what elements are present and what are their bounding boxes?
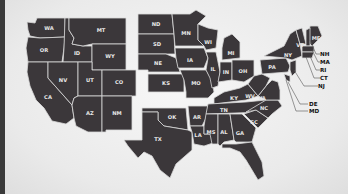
label-ri: RI (320, 67, 326, 73)
label-mi: MI (227, 50, 234, 56)
svg-text:CT: CT (320, 75, 328, 81)
svg-text:MO: MO (191, 80, 201, 86)
svg-text:FL: FL (245, 165, 253, 171)
svg-text:VT: VT (296, 42, 304, 48)
svg-text:MI: MI (227, 50, 234, 56)
label-me: ME (312, 35, 321, 41)
label-la: LA (194, 132, 201, 138)
state-mi[interactable] (222, 34, 240, 60)
label-nv: NV (59, 77, 67, 83)
label-pa: PA (268, 64, 275, 70)
label-ok: OK (168, 114, 177, 120)
label-in: IN (223, 69, 229, 75)
state-ct-ri[interactable] (302, 52, 314, 58)
svg-text:AL: AL (220, 129, 228, 135)
label-wv: WV (245, 93, 255, 99)
label-nm: NM (112, 110, 122, 116)
svg-text:IA: IA (187, 57, 193, 63)
label-ks: KS (162, 80, 170, 86)
label-id: ID (74, 50, 81, 56)
svg-text:MN: MN (181, 30, 191, 36)
svg-text:OR: OR (40, 47, 48, 53)
label-ar: AR (193, 114, 201, 120)
svg-text:NM: NM (112, 110, 122, 116)
label-nd: ND (152, 21, 161, 27)
svg-text:SD: SD (153, 41, 162, 47)
state-fl[interactable] (222, 142, 264, 180)
svg-text:TN: TN (220, 107, 228, 113)
svg-text:NJ: NJ (318, 83, 325, 90)
label-nc: NC (260, 105, 268, 111)
svg-text:KS: KS (162, 80, 170, 86)
svg-text:OK: OK (168, 114, 177, 120)
label-ia: IA (187, 57, 193, 63)
label-md: MD (309, 108, 320, 114)
label-tx: TX (154, 136, 162, 142)
label-mt: MT (97, 27, 106, 33)
svg-text:WA: WA (44, 25, 54, 31)
leader-ct (306, 57, 320, 78)
svg-text:KY: KY (230, 95, 238, 101)
label-vt: VT (296, 42, 304, 48)
svg-text:UT: UT (86, 77, 94, 83)
state-nj[interactable] (290, 60, 296, 76)
label-fl: FL (245, 165, 253, 171)
svg-text:MA: MA (320, 59, 331, 65)
svg-text:WI: WI (204, 39, 212, 45)
svg-text:WV: WV (245, 93, 255, 99)
label-nh: NH (320, 51, 330, 57)
svg-text:LA: LA (194, 132, 201, 138)
label-ct: CT (320, 75, 328, 81)
label-wy: WY (105, 53, 115, 59)
svg-text:NE: NE (154, 60, 162, 66)
svg-text:GA: GA (236, 130, 244, 136)
svg-text:ND: ND (152, 21, 161, 27)
leader-ma (312, 50, 320, 62)
label-nj: NJ (318, 83, 325, 90)
label-ma: MA (320, 59, 331, 65)
label-ky: KY (230, 95, 238, 101)
svg-text:CO: CO (115, 79, 124, 85)
svg-text:RI: RI (320, 67, 326, 73)
label-de: DE (309, 101, 318, 107)
svg-text:SC: SC (250, 119, 258, 125)
svg-text:IL: IL (210, 66, 216, 72)
svg-text:CA: CA (44, 94, 52, 100)
label-wi: WI (204, 39, 212, 45)
state-nh[interactable] (306, 28, 310, 46)
label-or: OR (40, 47, 48, 53)
label-ms: MS (207, 129, 216, 135)
svg-text:NH: NH (320, 51, 330, 57)
leader-de (288, 82, 308, 104)
svg-text:MT: MT (97, 27, 106, 33)
label-ny: NY (284, 52, 292, 58)
label-ga: GA (236, 130, 244, 136)
label-ut: UT (86, 77, 94, 83)
label-ca: CA (44, 94, 52, 100)
label-oh: OH (239, 68, 248, 74)
svg-text:PA: PA (268, 64, 275, 70)
label-mo: MO (191, 80, 201, 86)
state-de-md[interactable] (284, 74, 290, 82)
svg-text:DE: DE (309, 101, 318, 107)
svg-text:NV: NV (59, 77, 67, 83)
svg-text:MD: MD (309, 108, 320, 114)
label-sd: SD (153, 41, 162, 47)
label-mn: MN (181, 30, 191, 36)
label-il: IL (210, 66, 216, 72)
label-az: AZ (86, 110, 94, 116)
svg-text:NY: NY (284, 52, 292, 58)
svg-text:ME: ME (312, 35, 321, 41)
label-ne: NE (154, 60, 162, 66)
svg-text:OH: OH (239, 68, 248, 74)
svg-text:ID: ID (74, 50, 81, 56)
label-va: VA (258, 95, 266, 101)
label-al: AL (220, 129, 228, 135)
label-co: CO (115, 79, 124, 85)
svg-text:WY: WY (105, 53, 115, 59)
svg-text:IN: IN (223, 69, 229, 75)
state-ma[interactable] (302, 46, 314, 52)
us-states-map: WA OR CA ID NV MT WY UT AZ CO NM ND SD N… (0, 0, 348, 194)
svg-text:MS: MS (207, 129, 216, 135)
svg-text:VA: VA (258, 95, 266, 101)
